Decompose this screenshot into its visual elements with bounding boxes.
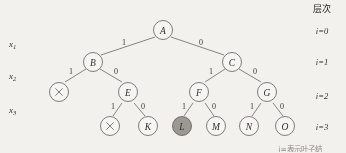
edge-label-B-E: 0 (114, 67, 118, 76)
node-G[interactable]: G (258, 83, 277, 102)
node-A-label: A (159, 26, 166, 36)
edge-label-F-L: 1 (182, 102, 186, 111)
edge-B-E (100, 69, 122, 82)
node-B-label: B (90, 58, 96, 68)
edge-label-G-O: 0 (280, 102, 284, 111)
level-label-1: i=1 (316, 57, 328, 67)
level-label-3: i=3 (316, 122, 328, 132)
node-X2[interactable] (101, 117, 120, 136)
level-label-0: i=0 (316, 26, 329, 36)
node-N[interactable]: N (240, 117, 259, 136)
node-O-label: O (282, 122, 289, 132)
node-E-label: E (124, 88, 131, 98)
edge-A-B (101, 37, 155, 55)
edge-A-C (171, 37, 224, 55)
edge-label-C-G: 0 (253, 67, 257, 76)
node-group: A B C E F (50, 21, 295, 136)
level-column-header: 层次 (313, 3, 331, 14)
edge-label-B-X1: 1 (69, 67, 73, 76)
x-label-1: x1 (8, 39, 16, 50)
node-K[interactable]: K (139, 117, 158, 136)
edge-label-A-C: 0 (199, 38, 203, 47)
level-label-2: i=2 (316, 91, 329, 101)
node-C-label: C (229, 58, 236, 68)
node-M[interactable]: M (207, 117, 226, 136)
node-X1[interactable] (50, 83, 69, 102)
node-O[interactable]: O (276, 117, 295, 136)
tree-canvas: 1 0 1 0 1 0 1 0 1 0 1 0 A B (0, 0, 346, 152)
edge-label-E-K: 0 (141, 102, 145, 111)
x-label-2: x2 (8, 71, 17, 82)
edge-C-F (205, 69, 225, 82)
node-N-label: N (245, 122, 253, 132)
node-K-label: K (144, 122, 152, 132)
node-B[interactable]: B (84, 53, 103, 72)
edge-label-E-X2: 1 (111, 102, 115, 111)
node-E[interactable]: E (119, 83, 138, 102)
edge-label-G-N: 1 (250, 102, 254, 111)
edge-label-A-B: 1 (122, 38, 126, 47)
figure-caption: i=表示叶子结 (278, 144, 322, 153)
node-F-label: F (195, 88, 202, 98)
node-L[interactable]: L (173, 117, 192, 136)
node-L-label: L (178, 122, 184, 132)
node-M-label: M (211, 122, 221, 132)
node-F[interactable]: F (190, 83, 209, 102)
x-label-3: x3 (8, 105, 17, 116)
level-column: 层次 i=0 i=1 i=2 i=3 (313, 3, 331, 132)
decision-tree-figure: 1 0 1 0 1 0 1 0 1 0 1 0 A B (0, 0, 346, 152)
edge-label-F-M: 0 (212, 102, 216, 111)
node-A[interactable]: A (154, 21, 173, 40)
node-C[interactable]: C (223, 53, 242, 72)
node-G-label: G (264, 88, 271, 98)
edge-C-G (239, 69, 261, 82)
edge-label-group: 1 0 1 0 1 0 1 0 1 0 1 0 (69, 38, 284, 111)
edge-label-C-F: 1 (209, 67, 213, 76)
variable-label-group: x1 x2 x3 (8, 39, 17, 116)
